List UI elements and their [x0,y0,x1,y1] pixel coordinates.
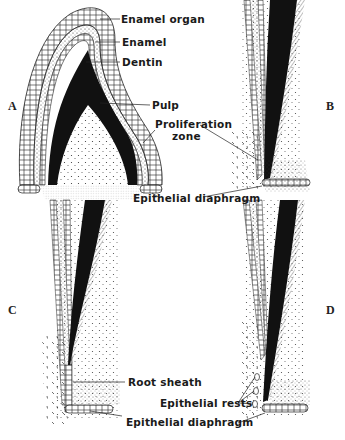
label-epithelial-diaphragm-d: Epithelial diaphragm [126,417,253,428]
label-enamel-organ: Enamel organ [121,14,205,25]
diagram-drawing [0,0,345,440]
label-dentin: Dentin [122,57,163,68]
panel-letter-d: D [326,304,335,316]
panel-b-drawing [228,0,310,192]
label-epithelial-diaphragm-b: Epithelial diaphragm [133,193,260,204]
panel-letter-b: B [326,100,334,112]
panel-c-drawing [42,200,120,425]
panel-letter-a: A [8,100,17,112]
panel-letter-c: C [8,304,17,316]
tooth-root-development-figure: A B C D Enamel organ Enamel Dentin Pulp … [0,0,345,440]
label-proliferation-zone-line1: Proliferation [155,119,232,130]
label-epithelial-rests: Epithelial rests [160,398,252,409]
label-enamel: Enamel [122,37,167,48]
label-root-sheath: Root sheath [128,377,202,388]
label-pulp: Pulp [152,100,179,111]
label-proliferation-zone-line2: zone [172,131,201,142]
